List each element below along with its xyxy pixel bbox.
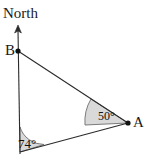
figure-canvas <box>0 0 149 154</box>
point-label-a: A <box>133 115 144 130</box>
angle-label-a-50: 50° <box>98 110 115 122</box>
point-marker-b <box>15 48 20 53</box>
point-marker-a <box>125 120 130 125</box>
north-label: North <box>3 6 38 21</box>
point-label-b: B <box>5 43 15 58</box>
angle-label-bottom-74: 74° <box>18 137 36 150</box>
geometry-figure: North B A 74° 50° <box>0 0 149 154</box>
